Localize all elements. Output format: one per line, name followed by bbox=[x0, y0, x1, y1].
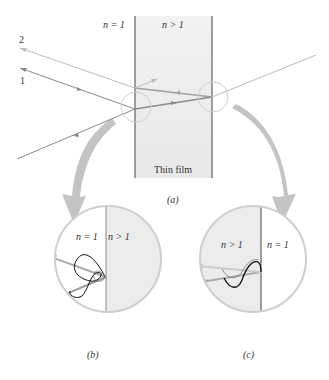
zoom-arrow-right bbox=[232, 104, 296, 224]
transmitted-ray bbox=[212, 55, 316, 97]
thin-film-diagram: n = 1 n > 1 2 1 Thin film (a) n = 1 n > … bbox=[0, 0, 329, 380]
label-c-left: n > 1 bbox=[221, 239, 243, 250]
panel-a: n = 1 n > 1 2 1 Thin film (a) bbox=[17, 16, 316, 224]
label-n-equals-1: n = 1 bbox=[103, 19, 125, 30]
incident-ray bbox=[17, 109, 135, 159]
arrowhead-icon bbox=[58, 292, 64, 297]
label-b-left: n = 1 bbox=[76, 231, 98, 242]
label-thin-film: Thin film bbox=[154, 164, 192, 175]
arrowhead-icon bbox=[20, 48, 27, 52]
panel-b: n = 1 n > 1 (b) bbox=[45, 200, 166, 361]
reflected-ray-2 bbox=[20, 48, 135, 88]
arrowhead-icon bbox=[20, 68, 27, 72]
caption-a: (a) bbox=[167, 194, 179, 206]
label-ray-1: 1 bbox=[20, 75, 25, 86]
film-region-b bbox=[106, 200, 166, 320]
label-n-greater-1: n > 1 bbox=[162, 19, 184, 30]
panel-c: n > 1 n = 1 (c) bbox=[195, 200, 321, 361]
arrowhead-icon bbox=[77, 87, 82, 91]
label-b-right: n > 1 bbox=[108, 231, 130, 242]
caption-c: (c) bbox=[243, 349, 255, 361]
label-c-right: n = 1 bbox=[267, 239, 289, 250]
film-region-c bbox=[195, 200, 261, 320]
caption-b: (b) bbox=[87, 349, 99, 361]
label-ray-2: 2 bbox=[19, 34, 24, 45]
